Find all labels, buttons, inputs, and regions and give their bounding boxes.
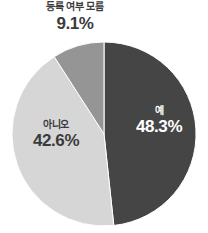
slice-label-unknown-value: 9.1% [14,14,136,33]
slice-label-unknown: 등록 여부 모름 9.1% [14,1,136,33]
slice-label-no-value: 42.6% [16,131,96,150]
slice-label-yes: 예 48.3% [124,105,194,136]
slice-label-no-name: 아니오 [16,119,96,130]
slice-label-yes-name: 예 [124,105,194,116]
slice-label-no: 아니오 42.6% [16,119,96,150]
pie-chart: 예 48.3% 아니오 42.6% 등록 여부 모름 9.1% [0,0,208,233]
slice-label-unknown-name: 등록 여부 모름 [14,1,136,12]
slice-label-yes-value: 48.3% [124,117,194,136]
